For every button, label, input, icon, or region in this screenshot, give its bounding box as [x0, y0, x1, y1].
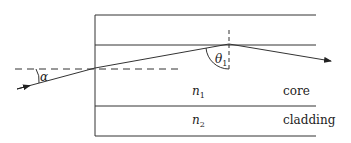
- refracted-ray: [95, 44, 229, 68]
- alpha-label: α: [40, 70, 48, 84]
- fiber-diagram: α θ1 n1 core n2 cladding: [0, 0, 351, 143]
- reflected-ray: [229, 44, 331, 61]
- cladding-label: cladding: [283, 113, 336, 127]
- core-label: core: [283, 84, 310, 98]
- n2-label: n2: [192, 113, 205, 129]
- n1-label: n1: [192, 84, 205, 100]
- arrow-head-incident: [17, 86, 30, 90]
- alpha-arc: [36, 69, 39, 83]
- theta-label: θ1: [215, 52, 227, 68]
